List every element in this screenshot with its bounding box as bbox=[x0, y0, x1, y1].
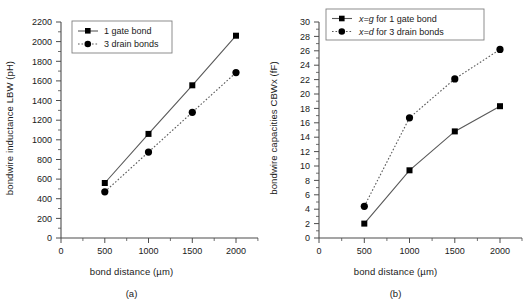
svg-text:22: 22 bbox=[300, 75, 310, 85]
svg-text:400: 400 bbox=[37, 194, 52, 204]
svg-text:8: 8 bbox=[305, 176, 310, 186]
svg-text:800: 800 bbox=[37, 155, 52, 165]
svg-text:1000: 1000 bbox=[138, 246, 158, 256]
series-line-3-drain-bonds-a bbox=[105, 73, 236, 192]
panel-caption-b: (b) bbox=[264, 288, 527, 299]
series-markers-xg-gate-bond-b bbox=[361, 103, 503, 226]
x-ticks-a: 0 500 1000 1500 2000 bbox=[58, 238, 246, 256]
legend-label-xd-prefix: x=d bbox=[358, 27, 375, 37]
legend-circle-marker-icon bbox=[339, 28, 346, 35]
svg-text:0: 0 bbox=[316, 246, 321, 256]
svg-text:500: 500 bbox=[97, 246, 112, 256]
legend-label-xd-suffix: for 3 drain bonds bbox=[374, 27, 445, 37]
svg-text:30: 30 bbox=[300, 17, 310, 27]
legend-label-xd-drain-bonds: x=d for 3 drain bonds bbox=[358, 27, 444, 37]
series-line-xd-drain-bonds-b bbox=[364, 49, 500, 206]
svg-text:16: 16 bbox=[300, 118, 310, 128]
svg-text:1000: 1000 bbox=[399, 246, 419, 256]
svg-text:20: 20 bbox=[300, 89, 310, 99]
svg-text:500: 500 bbox=[357, 246, 372, 256]
series-markers-xd-drain-bonds-b bbox=[361, 46, 504, 210]
svg-text:2: 2 bbox=[305, 219, 310, 229]
svg-text:1500: 1500 bbox=[182, 246, 202, 256]
svg-text:1600: 1600 bbox=[32, 76, 52, 86]
svg-text:14: 14 bbox=[300, 132, 310, 142]
legend-label-xg-suffix: for 1 gate bond bbox=[374, 14, 437, 24]
svg-text:600: 600 bbox=[37, 174, 52, 184]
svg-text:28: 28 bbox=[300, 32, 310, 42]
legend-a[interactable]: 1 gate bond 3 drain bonds bbox=[72, 21, 172, 53]
svg-text:6: 6 bbox=[305, 190, 310, 200]
legend-square-marker-icon bbox=[85, 28, 91, 34]
svg-text:200: 200 bbox=[37, 214, 52, 224]
series-line-xg-gate-bond-b bbox=[364, 106, 500, 223]
svg-text:2200: 2200 bbox=[32, 17, 52, 27]
svg-text:1400: 1400 bbox=[32, 96, 52, 106]
figure-two-panel-charts: bondwire inductance LBW (pH) 0 200 400 6… bbox=[0, 0, 527, 306]
chart-panel-a: bondwire inductance LBW (pH) 0 200 400 6… bbox=[0, 0, 263, 306]
svg-text:1000: 1000 bbox=[32, 135, 52, 145]
legend-label-1-gate-bond: 1 gate bond bbox=[104, 26, 152, 36]
svg-text:2000: 2000 bbox=[226, 246, 246, 256]
legend-circle-marker-icon bbox=[85, 41, 92, 48]
plot-area-a: 0 200 400 600 800 1000 1200 1400 1600 18… bbox=[0, 0, 263, 266]
svg-text:0: 0 bbox=[47, 233, 52, 243]
x-ticks-b: 0 500 1000 1500 2000 bbox=[316, 238, 510, 256]
svg-text:4: 4 bbox=[305, 204, 310, 214]
svg-text:26: 26 bbox=[300, 46, 310, 56]
svg-text:10: 10 bbox=[300, 161, 310, 171]
svg-text:0: 0 bbox=[305, 233, 310, 243]
svg-text:2000: 2000 bbox=[32, 37, 52, 47]
svg-text:24: 24 bbox=[300, 60, 310, 70]
legend-label-xg-prefix: x=g bbox=[358, 14, 374, 24]
svg-text:1200: 1200 bbox=[32, 115, 52, 125]
panel-caption-a: (a) bbox=[0, 288, 263, 299]
legend-label-3-drain-bonds: 3 drain bonds bbox=[104, 39, 159, 49]
plot-area-b: 0 2 4 6 8 10 12 14 16 18 20 bbox=[264, 0, 527, 266]
legend-label-xg-gate-bond: x=g for 1 gate bond bbox=[358, 14, 437, 24]
chart-panel-b: bondwire capacities CBWx (fF) 0 2 4 6 8 … bbox=[264, 0, 527, 306]
svg-text:1800: 1800 bbox=[32, 57, 52, 67]
svg-text:12: 12 bbox=[300, 147, 310, 157]
series-line-1-gate-bond-a bbox=[105, 36, 236, 183]
x-axis-title-a: bond distance (µm) bbox=[0, 266, 263, 277]
svg-text:0: 0 bbox=[58, 246, 63, 256]
svg-text:1500: 1500 bbox=[445, 246, 465, 256]
legend-b[interactable]: x=g for 1 gate bond x=d for 3 drain bond… bbox=[326, 9, 484, 40]
y-ticks-a: 0 200 400 600 800 1000 1200 1400 1600 18… bbox=[32, 17, 61, 243]
x-axis-title-b: bond distance (µm) bbox=[264, 266, 527, 277]
svg-text:2000: 2000 bbox=[490, 246, 510, 256]
svg-text:18: 18 bbox=[300, 104, 310, 114]
legend-square-marker-icon bbox=[339, 16, 345, 22]
